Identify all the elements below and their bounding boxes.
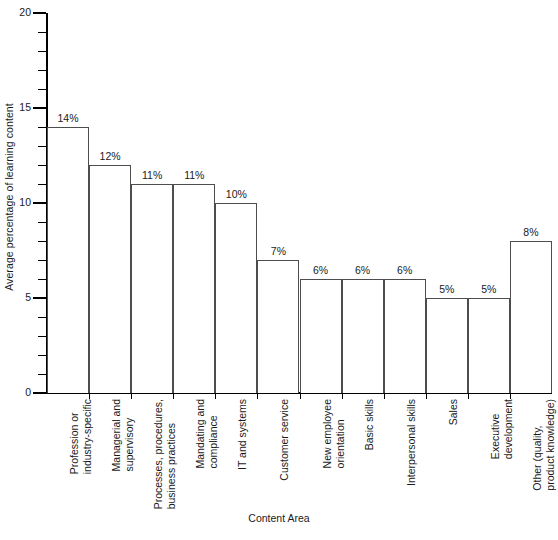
bar-value-label: 12% <box>89 151 131 162</box>
x-category-label-line: Executive <box>489 399 502 459</box>
y-tick-minor <box>38 89 46 90</box>
y-tick-label: 15 <box>0 102 31 114</box>
x-category-label-line: IT and systems <box>236 399 249 470</box>
x-category-label: Mandating andcompliance <box>194 399 208 468</box>
x-category-label-line: New employee <box>321 399 334 468</box>
y-tick-label-text: 10 <box>3 197 31 208</box>
bar-value-label: 6% <box>300 265 342 276</box>
x-category-label: Processes, procedures,business practices <box>152 399 166 509</box>
bar-value-label: 6% <box>342 265 384 276</box>
x-category-label: Profession orindustry-specific <box>68 399 82 474</box>
x-category-label-line: development <box>502 399 515 459</box>
x-category-label: New employeeorientation <box>321 399 335 468</box>
y-tick-label-text: 20 <box>3 7 31 18</box>
y-tick-label-text: 15 <box>3 102 31 113</box>
y-tick-label: 0 <box>0 387 31 399</box>
bar-value-label: 6% <box>384 265 426 276</box>
y-tick-minor <box>38 374 46 375</box>
bar[interactable] <box>468 298 510 393</box>
x-tick-separator <box>257 393 258 399</box>
x-axis-title: Content Area <box>0 512 558 524</box>
x-category-label-line: Processes, procedures, <box>152 399 165 509</box>
bar[interactable] <box>510 241 552 393</box>
x-category-label-line: supervisory <box>124 399 137 471</box>
bar-value-label: 7% <box>257 246 299 257</box>
x-category-label: Interpersonal skills <box>405 399 419 486</box>
x-category-label-line: Customer service <box>278 399 291 481</box>
x-category-label-line: product knowledge) <box>544 399 557 491</box>
bar[interactable] <box>384 279 426 393</box>
bar-value-label: 11% <box>131 170 173 181</box>
bar[interactable] <box>89 165 131 393</box>
bar-chart-figure: Average percentage of learning content 0… <box>0 0 558 540</box>
x-category-label-line: orientation <box>334 399 347 468</box>
x-category-label: Customer service <box>278 399 292 481</box>
y-tick-label-text: 5 <box>3 292 31 303</box>
x-category-label: IT and systems <box>236 399 250 470</box>
y-tick-minor <box>38 127 46 128</box>
bar-value-label: 5% <box>468 284 510 295</box>
x-category-label-line: Profession or <box>68 399 81 474</box>
y-tick-minor <box>38 32 46 33</box>
y-tick-major <box>33 12 46 14</box>
bar[interactable] <box>300 279 342 393</box>
x-category-label: Other (quality,product knowledge) <box>531 399 545 491</box>
y-tick-minor <box>38 70 46 71</box>
y-tick-major <box>33 297 46 299</box>
bar-value-label: 8% <box>510 227 552 238</box>
y-tick-label-text: 0 <box>3 387 31 398</box>
y-tick-label: 20 <box>0 7 31 19</box>
x-category-label: Basic skills <box>363 399 377 450</box>
y-tick-minor <box>38 222 46 223</box>
bar[interactable] <box>173 184 215 393</box>
y-tick-minor <box>38 184 46 185</box>
bar-value-label: 10% <box>215 189 257 200</box>
y-tick-minor <box>38 279 46 280</box>
bar[interactable] <box>426 298 468 393</box>
x-tick-separator <box>468 393 469 399</box>
x-category-label-line: business practices <box>166 399 179 509</box>
y-tick-minor <box>38 336 46 337</box>
x-category-label: Executivedevelopment <box>489 399 503 459</box>
x-category-label-line: Managerial and <box>110 399 123 471</box>
x-category-label-line: Basic skills <box>363 399 376 450</box>
bar-value-label: 11% <box>173 170 215 181</box>
y-tick-major <box>33 202 46 204</box>
plot-area: 14%12%11%11%10%7%6%6%6%5%5%8% <box>47 13 552 393</box>
x-category-label-line: Mandating and <box>194 399 207 468</box>
bar-value-label: 14% <box>47 113 89 124</box>
y-tick-minor <box>38 260 46 261</box>
bar[interactable] <box>131 184 173 393</box>
y-tick-major <box>33 392 46 394</box>
x-category-label-line: Interpersonal skills <box>405 399 418 486</box>
x-tick-separator <box>426 393 427 399</box>
x-category-label-line: Sales <box>447 399 460 425</box>
bar[interactable] <box>342 279 384 393</box>
x-category-label-line: industry-specific <box>81 399 94 474</box>
bar[interactable] <box>215 203 257 393</box>
y-tick-minor <box>38 355 46 356</box>
x-category-label-line: compliance <box>208 399 221 468</box>
x-tick-separator <box>300 393 301 399</box>
bar[interactable] <box>257 260 299 393</box>
y-tick-minor <box>38 317 46 318</box>
y-tick-minor <box>38 165 46 166</box>
y-tick-label: 5 <box>0 292 31 304</box>
bar-value-label: 5% <box>426 284 468 295</box>
y-tick-major <box>33 107 46 109</box>
bar[interactable] <box>47 127 89 393</box>
x-category-label: Managerial andsupervisory <box>110 399 124 471</box>
x-category-label: Sales <box>447 399 461 425</box>
y-tick-minor <box>38 146 46 147</box>
y-tick-label: 10 <box>0 197 31 209</box>
y-tick-minor <box>38 241 46 242</box>
x-tick-separator <box>384 393 385 399</box>
y-tick-minor <box>38 51 46 52</box>
x-category-label-line: Other (quality, <box>531 399 544 491</box>
